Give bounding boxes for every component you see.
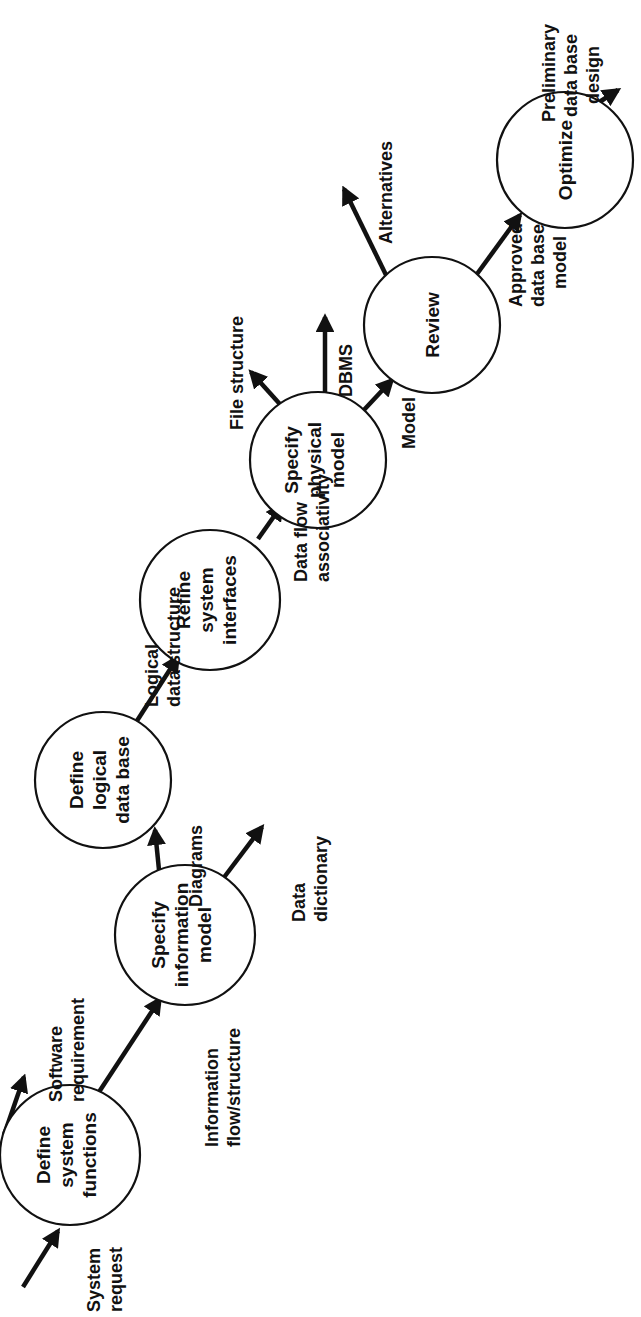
node-define-logical-data-base: Define logical data base: [35, 712, 171, 848]
svg-text:File structure: File structure: [227, 316, 247, 430]
flow-label-data-dictionary: Data dictionary: [289, 836, 331, 922]
svg-text:data base: data base: [528, 224, 548, 307]
flow-label-system-request: System request: [84, 1247, 126, 1312]
svg-text:Data: Data: [289, 882, 309, 922]
flow-label-approved-data-base-model: Approved data base model: [506, 223, 570, 307]
svg-text:flow/structure: flow/structure: [224, 1028, 244, 1147]
arrow-system-request: [23, 1231, 58, 1287]
svg-text:System: System: [84, 1248, 104, 1312]
node-label-line: system: [196, 567, 217, 633]
flow-label-file-structure: File structure: [227, 316, 247, 430]
process-flow-diagram: Define system functions Specify informat…: [0, 0, 641, 1317]
arrow-data-dictionary: [222, 827, 262, 880]
node-label-line: system: [56, 1122, 77, 1188]
svg-text:data structure: data structure: [164, 587, 184, 707]
flow-label-alternatives: Alternatives: [376, 141, 396, 244]
node-label-line: Define: [33, 1126, 54, 1184]
flow-label-diagrams: Diagrams: [186, 825, 206, 907]
svg-text:data base: data base: [561, 34, 581, 117]
svg-text:dictionary: dictionary: [311, 836, 331, 922]
node-label-line: functions: [79, 1112, 100, 1198]
svg-text:DBMS: DBMS: [336, 344, 356, 397]
node-label-line: logical: [89, 750, 110, 810]
svg-text:associativity: associativity: [313, 474, 333, 582]
node-label-line: Specify: [148, 901, 169, 969]
arrow-information-flow-structure: [97, 999, 160, 1095]
node-define-system-functions: Define system functions: [0, 1085, 140, 1225]
node-label-line: Review: [422, 292, 443, 358]
svg-text:Software: Software: [46, 1026, 66, 1102]
arrow-model: [362, 380, 392, 412]
svg-text:design: design: [583, 46, 603, 104]
node-label-line: model: [194, 907, 215, 963]
svg-text:Alternatives: Alternatives: [376, 141, 396, 244]
flow-label-dbms: DBMS: [336, 344, 356, 397]
flow-label-model: Model: [399, 397, 419, 449]
node-label-line: Optimize: [555, 120, 576, 200]
node-label-line: data base: [112, 736, 133, 824]
svg-text:model: model: [550, 236, 570, 289]
svg-text:requirement: requirement: [68, 998, 88, 1102]
svg-text:Model: Model: [399, 397, 419, 449]
svg-text:Data flow: Data flow: [291, 501, 311, 582]
svg-text:Preliminary: Preliminary: [539, 24, 559, 122]
diagram-stage: Define system functions Specify informat…: [0, 0, 641, 1317]
node-review: Review: [364, 257, 500, 393]
svg-text:Diagrams: Diagrams: [186, 825, 206, 907]
flow-label-information-flow-structure: Information flow/structure: [202, 1028, 244, 1147]
node-label-line: interfaces: [219, 555, 240, 645]
svg-text:Approved: Approved: [506, 223, 526, 307]
node-label-line: Define: [66, 751, 87, 809]
node-label-line: Specify: [281, 426, 302, 494]
svg-text:Information: Information: [202, 1048, 222, 1147]
svg-text:request: request: [106, 1247, 126, 1312]
node-specify-information-model: Specify information model: [115, 865, 255, 1005]
svg-text:Logical: Logical: [142, 644, 162, 707]
